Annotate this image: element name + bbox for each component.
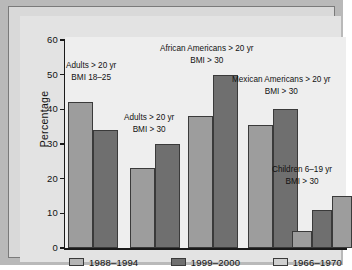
figure-outer-frame: Percentage 6050403020100 Adults > 20 yrB… bbox=[8, 6, 335, 258]
y-axis-tick-label: 50 bbox=[32, 69, 58, 80]
y-axis-tick-label: 40 bbox=[32, 103, 58, 114]
y-axis-tick-mark bbox=[60, 109, 65, 110]
bar bbox=[130, 168, 155, 248]
y-axis-tick-mark bbox=[60, 143, 65, 144]
group-annotation: Children 6–19 yrBMI > 30 bbox=[272, 164, 332, 187]
group-annotation-line1: Children 6–19 yr bbox=[272, 164, 332, 176]
group-annotation-line1: Adults > 20 yr bbox=[124, 112, 174, 124]
y-axis-tick-label: 60 bbox=[32, 34, 58, 45]
y-axis-title: Percentage bbox=[38, 64, 50, 174]
group-annotation-line1: African Americans > 20 yr bbox=[160, 43, 254, 55]
group-annotation: Adults > 20 yrBMI > 30 bbox=[124, 112, 174, 135]
y-axis-tick-mark bbox=[60, 178, 65, 179]
group-annotation-line1: Adults > 20 yr bbox=[66, 60, 116, 72]
bar bbox=[155, 144, 180, 248]
group-annotation-line2: BMI > 30 bbox=[232, 86, 331, 98]
bar bbox=[292, 231, 312, 248]
bar bbox=[332, 196, 352, 248]
group-annotation: Adults > 20 yrBMI 18–25 bbox=[66, 60, 116, 83]
bar bbox=[248, 125, 273, 248]
bar bbox=[188, 116, 213, 248]
group-annotation-line2: BMI > 30 bbox=[272, 176, 332, 188]
legend-item[interactable]: 1988–1994 bbox=[69, 257, 138, 268]
bar bbox=[312, 210, 332, 248]
legend-label: 1999–2000 bbox=[191, 257, 240, 268]
x-axis-line bbox=[64, 248, 347, 250]
y-axis-tick-mark bbox=[60, 74, 65, 75]
y-axis-tick-mark bbox=[60, 213, 65, 214]
chart-legend: 1988–19941999–20001966–1970 bbox=[65, 254, 346, 270]
group-annotation: African Americans > 20 yrBMI > 30 bbox=[160, 43, 254, 66]
legend-label: 1988–1994 bbox=[89, 257, 138, 268]
legend-swatch-icon bbox=[171, 258, 186, 266]
y-axis-tick-label: 20 bbox=[32, 173, 58, 184]
legend-swatch-icon bbox=[69, 258, 84, 266]
bar bbox=[68, 102, 93, 248]
figure-inner-frame: Percentage 6050403020100 Adults > 20 yrB… bbox=[20, 16, 341, 262]
y-axis-tick-label: 0 bbox=[32, 242, 58, 253]
legend-item[interactable]: 1999–2000 bbox=[171, 257, 240, 268]
y-axis-tick-label: 30 bbox=[32, 138, 58, 149]
group-annotation: Mexican Americans > 20 yrBMI > 30 bbox=[232, 74, 331, 97]
y-axis-tick-label: 10 bbox=[32, 207, 58, 218]
group-annotation-line2: BMI > 30 bbox=[160, 55, 254, 67]
bar bbox=[93, 130, 118, 248]
bar bbox=[213, 75, 238, 248]
legend-label: 1966–1970 bbox=[293, 257, 342, 268]
group-annotation-line1: Mexican Americans > 20 yr bbox=[232, 74, 331, 86]
legend-swatch-icon bbox=[273, 258, 288, 266]
legend-item[interactable]: 1966–1970 bbox=[273, 257, 342, 268]
group-annotation-line2: BMI 18–25 bbox=[66, 72, 116, 84]
group-annotation-line2: BMI > 30 bbox=[124, 124, 174, 136]
y-axis-tick-mark bbox=[60, 247, 65, 248]
y-axis-tick-mark bbox=[60, 39, 65, 40]
